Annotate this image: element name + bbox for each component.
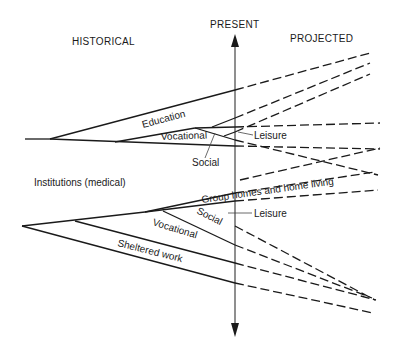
institutions-label: Institutions (medical) (34, 177, 126, 188)
vocational-bottom-projection (235, 263, 376, 300)
top-rise-line-1 (212, 118, 235, 127)
top-lower-line (50, 139, 235, 146)
top-rise-line-2 (224, 132, 235, 136)
present-header: PRESENT (210, 19, 259, 30)
vocational-top-continue (195, 127, 235, 128)
arrow-up-icon (231, 34, 239, 47)
social-top-label: Social (192, 157, 219, 168)
top-lower-projection (235, 146, 380, 149)
arrow-down-icon (231, 323, 239, 337)
projected-header: PROJECTED (290, 33, 353, 44)
leisure-top-label: Leisure (254, 130, 287, 141)
top-cross-projection (240, 148, 380, 180)
vocational-bottom-label: Vocational (151, 216, 198, 240)
vocational-top-label: Vocational (161, 129, 208, 142)
top-rise-projection-2 (235, 74, 370, 132)
group-homes-label: Group homes and home living (201, 176, 335, 205)
present-axis (231, 34, 239, 337)
service-evolution-diagram: HISTORICAL PRESENT PROJECTED E (0, 0, 398, 353)
leisure-bottom-label: Leisure (254, 208, 287, 219)
vocational-top-projection (235, 123, 380, 127)
social-bottom-projection (235, 245, 372, 298)
social-top-projection (235, 140, 378, 175)
leisure-top-leader (238, 132, 253, 135)
leisure-bottom-projection (235, 226, 375, 300)
education-label: Education (141, 108, 187, 130)
social-bottom-label: Social (195, 205, 224, 227)
bottom-branch-group (22, 172, 378, 313)
historical-header: HISTORICAL (72, 36, 135, 47)
